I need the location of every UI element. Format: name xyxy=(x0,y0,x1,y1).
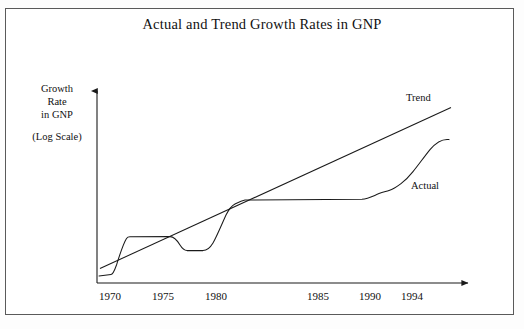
series-label-actual: Actual xyxy=(411,180,439,191)
x-tick-1980: 1980 xyxy=(196,290,236,302)
figure-container: Actual and Trend Growth Rates in GNP Gro… xyxy=(0,0,524,329)
series-line-actual xyxy=(99,139,449,276)
x-tick-1975: 1975 xyxy=(143,290,183,302)
x-tick-1970: 1970 xyxy=(90,290,130,302)
x-tick-1985: 1985 xyxy=(298,290,338,302)
x-tick-1990: 1990 xyxy=(350,290,390,302)
series-line-trend xyxy=(100,108,451,269)
x-tick-1994: 1994 xyxy=(392,290,432,302)
plot-area xyxy=(0,0,524,329)
series-label-trend: Trend xyxy=(406,92,431,103)
